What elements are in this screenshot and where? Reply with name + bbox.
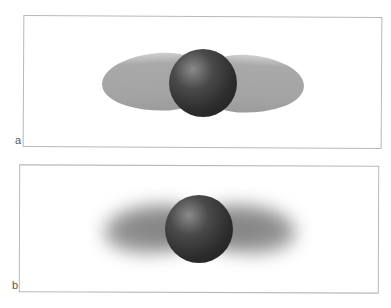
sphere-a [169,49,237,117]
panel-label-b: b [12,279,18,291]
sphere-b [165,195,233,263]
panel-label-a: a [15,134,21,146]
